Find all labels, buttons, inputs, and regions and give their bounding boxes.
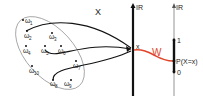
outcome-omega-8: ω 8	[50, 79, 58, 89]
tick-0-label: 0	[177, 69, 181, 76]
svg-text:4: 4	[28, 51, 31, 56]
tick-0-dot	[173, 71, 176, 74]
outcome-omega-5: ω 5	[41, 45, 49, 56]
svg-text:7: 7	[78, 66, 81, 71]
tick-1-dot	[173, 39, 176, 42]
outcome-omega-3: ω 3	[49, 32, 57, 42]
outcome-omega-7: ω 7	[73, 60, 81, 71]
outcome-omega-10: ω 10	[29, 65, 40, 76]
probability-label: P(X=x)	[176, 58, 198, 66]
tick-1-label: 1	[177, 37, 181, 44]
mapping-curve-1	[26, 23, 131, 48]
mapping-label: X	[95, 7, 101, 17]
diagram-canvas: X IR x W IR 1 0 P(X=x) ω 1 ω 2	[0, 0, 203, 99]
point-x-label: x	[136, 43, 140, 50]
svg-text:9: 9	[69, 84, 72, 89]
real-line-2-label: IR	[176, 4, 183, 11]
svg-text:5: 5	[46, 51, 49, 56]
outcome-omega-4: ω 4	[23, 45, 31, 56]
up-arrow-icon	[131, 3, 136, 8]
svg-text:1: 1	[30, 21, 33, 26]
outcome-omega-2: ω 2	[24, 30, 32, 41]
probability-point-dot	[173, 60, 176, 63]
real-line-1-label: IR	[136, 4, 143, 11]
outcome-omega-6: ω 6	[58, 45, 66, 56]
svg-text:10: 10	[34, 71, 40, 76]
svg-text:2: 2	[29, 36, 32, 41]
probability-map-label: W	[152, 47, 162, 58]
outcome-omega-9: ω 9	[64, 79, 72, 89]
svg-text:3: 3	[54, 37, 57, 42]
random-variable-diagram: X IR x W IR 1 0 P(X=x) ω 1 ω 2	[0, 0, 203, 99]
svg-text:8: 8	[55, 84, 58, 89]
